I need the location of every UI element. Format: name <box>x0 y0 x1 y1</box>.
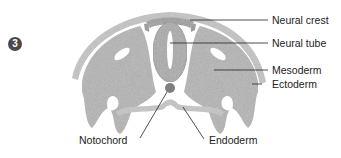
notochord <box>165 83 175 93</box>
label-endoderm: Endoderm <box>209 134 257 146</box>
embryo-cross-section-diagram: 3 Neural crest Neural tube Mesoderm Ecto… <box>0 0 341 158</box>
label-mesoderm: Mesoderm <box>272 64 322 76</box>
neural-canal <box>167 31 173 69</box>
label-notochord: Notochord <box>79 134 127 146</box>
step-number-badge: 3 <box>8 37 22 51</box>
mesoderm-right <box>184 26 258 134</box>
label-neural-tube: Neural tube <box>272 37 326 49</box>
label-ectoderm: Ectoderm <box>272 78 317 90</box>
label-neural-crest: Neural crest <box>272 14 329 26</box>
